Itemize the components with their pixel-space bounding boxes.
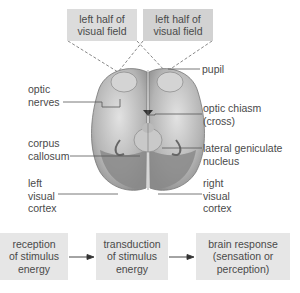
optic-chiasm-label: optic chiasm (cross): [203, 102, 261, 127]
right-visual-field-box: left half of visual field: [143, 9, 213, 41]
pupil-label: pupil: [202, 63, 224, 76]
left-visual-field-box: left half of visual field: [67, 9, 137, 41]
brain: [92, 69, 205, 191]
flow-step-reception: reception of stimulus energy: [0, 233, 68, 280]
left-visual-field-label: left half of visual field: [77, 13, 126, 37]
left-visual-cortex-label: left visual cortex: [28, 177, 57, 215]
right-visual-field-label: left half of visual field: [153, 13, 202, 37]
lateral-geniculate-label: lateral geniculate nucleus: [203, 142, 282, 167]
optic-nerves-label: optic nerves: [28, 83, 60, 108]
sight-lines: [68, 41, 212, 72]
flow-step-brain-response: brain response (sensation or perception): [196, 233, 290, 280]
flow-step-transduction: transduction of stimulus energy: [96, 233, 168, 280]
right-visual-cortex-label: right visual cortex: [203, 177, 232, 215]
corpus-callosum-label: corpus callosum: [28, 137, 69, 162]
